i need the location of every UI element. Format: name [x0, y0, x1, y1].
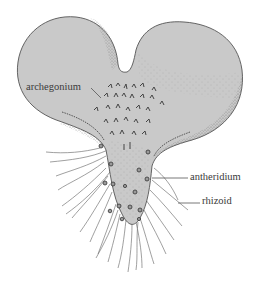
label-archegonium: archegonium: [26, 82, 81, 93]
label-antheridium: antheridium: [190, 172, 241, 183]
prothallus-illustration: [0, 0, 264, 283]
figure-canvas: archegonium antheridium rhizoid: [0, 0, 264, 283]
label-rhizoid: rhizoid: [202, 196, 232, 207]
